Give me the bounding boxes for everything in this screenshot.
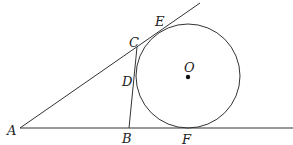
label-B: B	[121, 131, 132, 145]
label-A: A	[6, 123, 16, 138]
label-O: O	[184, 60, 195, 75]
geometry-diagram: A B C D E F O	[0, 0, 293, 145]
center-point-O	[186, 75, 190, 79]
label-E: E	[154, 14, 165, 29]
label-F: F	[181, 132, 192, 145]
line-AE	[20, 3, 200, 128]
label-C: C	[129, 35, 139, 50]
label-D: D	[121, 74, 133, 89]
